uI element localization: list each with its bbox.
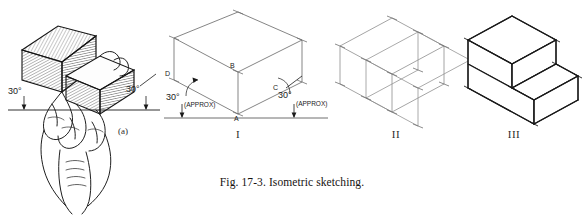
- part-label-a: (a): [118, 126, 128, 136]
- angle-callout-left: [180, 78, 198, 119]
- approx-note-right: (APPROX): [296, 100, 327, 107]
- panel-numeral-i: I: [218, 128, 258, 140]
- angle-label-right-30: 30°: [126, 84, 140, 94]
- vertex-label-b: B: [230, 62, 235, 69]
- angle-label-left-30: 30°: [166, 92, 180, 102]
- panel-isometric-box-stage-one: D B C A 30° (APPROX) 30° (APPROX) I: [160, 0, 332, 160]
- figure-plate: 30° 30° (a): [0, 0, 584, 216]
- panel-numeral-ii: II: [376, 128, 416, 140]
- vertex-label-a: A: [234, 115, 239, 122]
- panel-finished-stepped-solid: III: [446, 0, 584, 160]
- vertex-label-d: D: [165, 70, 170, 77]
- figure-caption: Fig. 17-3. Isometric sketching.: [0, 176, 584, 188]
- box-edges: [340, 18, 444, 112]
- angle-callout-right: [140, 74, 156, 110]
- panel-numeral-iii: III: [492, 128, 536, 140]
- angle-label-left-30: 30°: [8, 86, 22, 96]
- angle-label-right-30: 30°: [278, 90, 292, 100]
- approx-note-left: (APPROX): [184, 101, 215, 108]
- angle-callout-left: [22, 96, 27, 110]
- solid-faces: [468, 16, 578, 124]
